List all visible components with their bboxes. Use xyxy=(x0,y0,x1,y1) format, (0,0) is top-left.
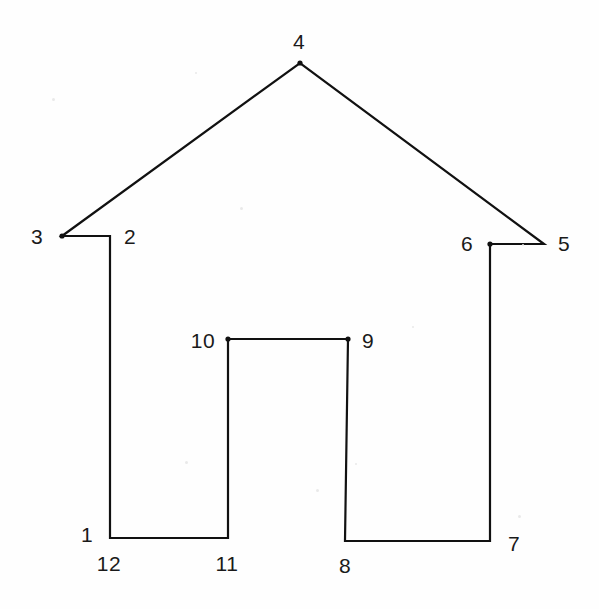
vertex-label-1: 1 xyxy=(81,524,93,545)
vertex-label-2: 2 xyxy=(124,226,136,247)
vertex-dot-9 xyxy=(345,336,350,341)
vertex-dot-group xyxy=(59,60,492,341)
vertex-dot-10 xyxy=(225,336,230,341)
vertex-dot-4 xyxy=(297,60,302,65)
vertex-label-3: 3 xyxy=(31,226,43,247)
vertex-label-4: 4 xyxy=(293,31,305,52)
vertex-label-10: 10 xyxy=(191,330,215,351)
vertex-label-11: 11 xyxy=(216,553,239,574)
house-polygon-path xyxy=(62,63,544,541)
vertex-label-12: 12 xyxy=(97,553,121,574)
vertex-dot-6 xyxy=(487,241,492,246)
vertex-label-8: 8 xyxy=(339,555,351,576)
vertex-label-7: 7 xyxy=(508,533,520,554)
vertex-label-9: 9 xyxy=(362,330,374,351)
figure-canvas: 123456789101112 xyxy=(0,0,599,609)
vertex-dot-3 xyxy=(59,233,64,238)
polygon-drawing xyxy=(0,0,599,609)
vertex-label-5: 5 xyxy=(558,233,570,254)
vertex-label-6: 6 xyxy=(461,233,473,254)
